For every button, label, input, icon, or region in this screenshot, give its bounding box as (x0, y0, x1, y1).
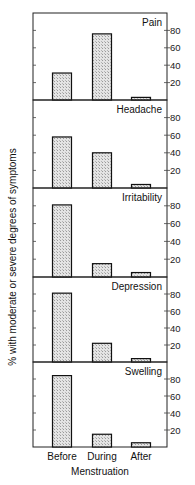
y-tick-label: 60 (170, 306, 181, 317)
x-tick-label: Before (47, 451, 77, 462)
y-tick-label: 20 (170, 425, 181, 436)
y-tick-label: 20 (170, 254, 181, 265)
panel-depression: 20406080Depression (33, 277, 181, 362)
bar-before (53, 137, 72, 188)
x-tick-label: After (130, 451, 152, 462)
y-tick-label: 80 (170, 289, 181, 300)
chart-panels: 20406080Pain20406080Headache20406080Irri… (33, 13, 181, 447)
bar-during (93, 153, 112, 188)
symptom-bar-chart: 20406080Pain20406080Headache20406080Irri… (0, 0, 195, 485)
y-tick-label: 40 (170, 147, 181, 158)
y-tick-label: 40 (170, 236, 181, 247)
panel-headache: 20406080Headache (33, 100, 181, 188)
y-tick-label: 60 (170, 218, 181, 229)
x-tick-label: During (87, 451, 116, 462)
panel-irritability: 20406080Irritability (33, 188, 181, 277)
panel-title: Irritability (122, 192, 162, 203)
panel-title: Pain (142, 17, 162, 28)
panel-title: Swelling (125, 366, 162, 377)
y-tick-label: 20 (170, 340, 181, 351)
bar-before (53, 205, 72, 277)
y-tick-label: 20 (170, 77, 181, 88)
bar-before (53, 376, 72, 447)
y-axis-label: % with moderate or severe degrees of sym… (7, 148, 18, 365)
bar-before (53, 293, 72, 362)
y-tick-label: 40 (170, 323, 181, 334)
bar-after (132, 273, 151, 277)
bar-after (132, 359, 151, 362)
bar-during (93, 34, 112, 100)
y-tick-label: 80 (170, 200, 181, 211)
y-tick-label: 60 (170, 42, 181, 53)
y-tick-label: 20 (170, 165, 181, 176)
y-tick-label: 40 (170, 408, 181, 419)
y-tick-label: 80 (170, 112, 181, 123)
y-tick-label: 60 (170, 391, 181, 402)
y-tick-label: 40 (170, 60, 181, 71)
bar-during (93, 264, 112, 277)
y-tick-label: 60 (170, 130, 181, 141)
x-axis-label: Menstruation (71, 466, 129, 477)
bar-during (93, 434, 112, 447)
panel-title: Headache (116, 104, 162, 115)
panel-swelling: 20406080Swelling (33, 362, 181, 447)
bar-after (132, 184, 151, 188)
x-axis-tick-labels: BeforeDuringAfter (47, 451, 152, 462)
y-tick-label: 80 (170, 374, 181, 385)
bar-before (53, 73, 72, 100)
panel-title: Depression (111, 281, 162, 292)
panel-pain: 20406080Pain (33, 13, 181, 100)
y-tick-label: 80 (170, 25, 181, 36)
bar-during (93, 343, 112, 362)
bar-after (132, 443, 151, 447)
